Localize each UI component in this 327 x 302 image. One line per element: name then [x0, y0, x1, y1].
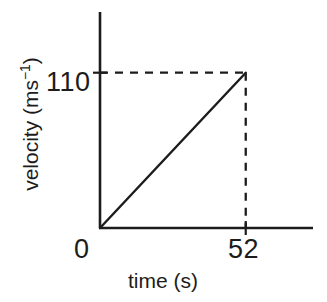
x-axis-tick-label-origin: 0	[74, 236, 89, 263]
x-axis-title: time (s)	[128, 270, 198, 291]
plot-area	[0, 0, 327, 302]
y-axis-title-base: velocity (ms	[19, 80, 42, 191]
y-axis-tick-label-110: 110	[46, 69, 91, 96]
velocity-time-graph: 110 0 52 time (s) velocity (ms−1)	[0, 0, 327, 302]
velocity-data-line	[100, 73, 246, 228]
y-axis-title-exponent: −1	[17, 64, 33, 80]
x-axis-tick-label-52: 52	[228, 236, 259, 263]
y-axis-title-closing-paren: )	[19, 57, 42, 64]
y-axis-title: velocity (ms−1)	[20, 57, 41, 191]
